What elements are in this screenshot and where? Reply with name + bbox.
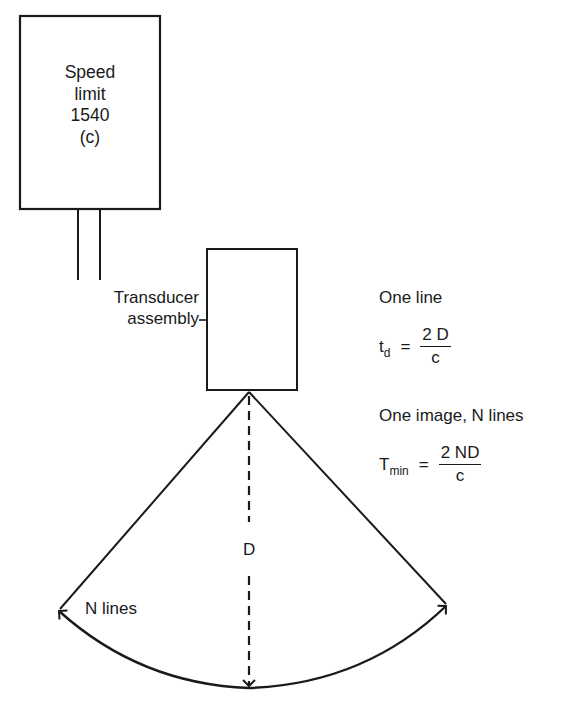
sector-left-edge xyxy=(60,392,249,609)
equals-sign: = xyxy=(400,337,410,357)
sign-line-2: limit xyxy=(20,84,160,106)
transducer-assembly xyxy=(199,249,297,390)
sign-line-3: 1540 xyxy=(20,105,160,127)
one-image-equation: Tmin = 2 ND c xyxy=(379,443,481,486)
sweep-arc-left xyxy=(59,611,249,688)
transducer-label-line-1: Transducer xyxy=(114,287,199,308)
one-image-heading: One image, N lines xyxy=(379,405,524,426)
sweep-arc-right xyxy=(249,606,446,688)
speed-limit-text: Speed limit 1540 (c) xyxy=(20,62,160,148)
numerator: 2 ND xyxy=(439,443,482,465)
one-line-heading: One line xyxy=(379,287,442,308)
transducer-box xyxy=(207,249,297,390)
n-lines-label: N lines xyxy=(85,598,137,619)
equals-sign: = xyxy=(419,455,429,475)
numerator: 2 D xyxy=(420,325,450,347)
one-image-fraction: 2 ND c xyxy=(439,443,482,486)
sign-line-1: Speed xyxy=(20,62,160,84)
one-line-equation: td = 2 D c xyxy=(379,325,451,368)
sign-line-4: (c) xyxy=(20,127,160,149)
one-line-fraction: 2 D c xyxy=(420,325,450,368)
denominator: c xyxy=(431,347,440,368)
depth-label: D xyxy=(243,539,255,560)
transducer-label: Transducer assembly xyxy=(114,287,199,329)
tmin-symbol: Tmin xyxy=(379,455,409,475)
denominator: c xyxy=(456,465,465,486)
transducer-label-line-2: assembly xyxy=(114,308,199,329)
td-symbol: td xyxy=(379,337,390,357)
speed-limit-sign xyxy=(20,16,160,280)
